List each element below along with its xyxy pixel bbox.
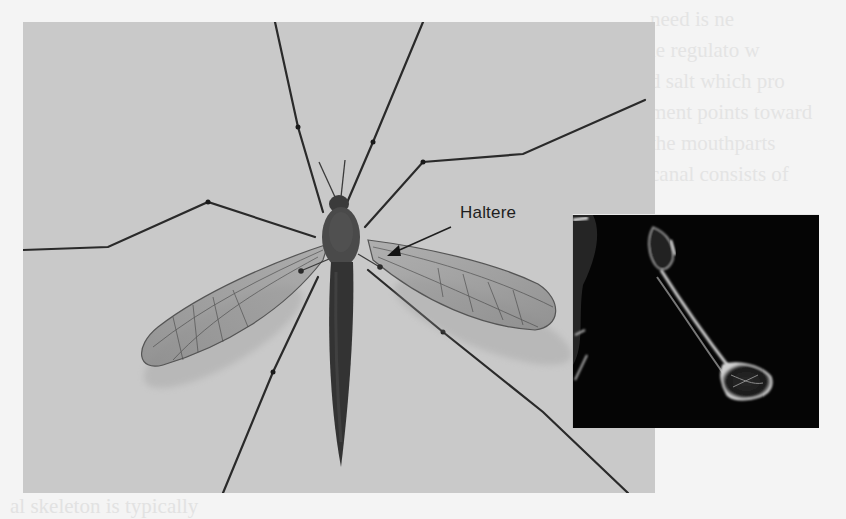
- bleed-line: canal consists of: [650, 159, 846, 190]
- bleed-line: the mouthparts: [650, 128, 846, 159]
- bleed-line: d salt which pro: [650, 66, 846, 97]
- bleed-line: le regulato w: [650, 35, 846, 66]
- haltere-sem-image: [573, 215, 819, 428]
- crane-fly-illustration: [23, 22, 655, 493]
- background-bleed-text-bottom: al skeleton is typically: [0, 493, 846, 519]
- bleed-line: ment points toward: [650, 97, 846, 128]
- bleed-line: al skeleton is typically: [10, 494, 198, 518]
- crane-fly-photo: [23, 22, 655, 493]
- haltere-sem-inset: [572, 214, 819, 428]
- haltere-label: Haltere: [460, 203, 516, 223]
- antennae: [319, 160, 345, 197]
- bleed-line: need is ne: [650, 4, 846, 35]
